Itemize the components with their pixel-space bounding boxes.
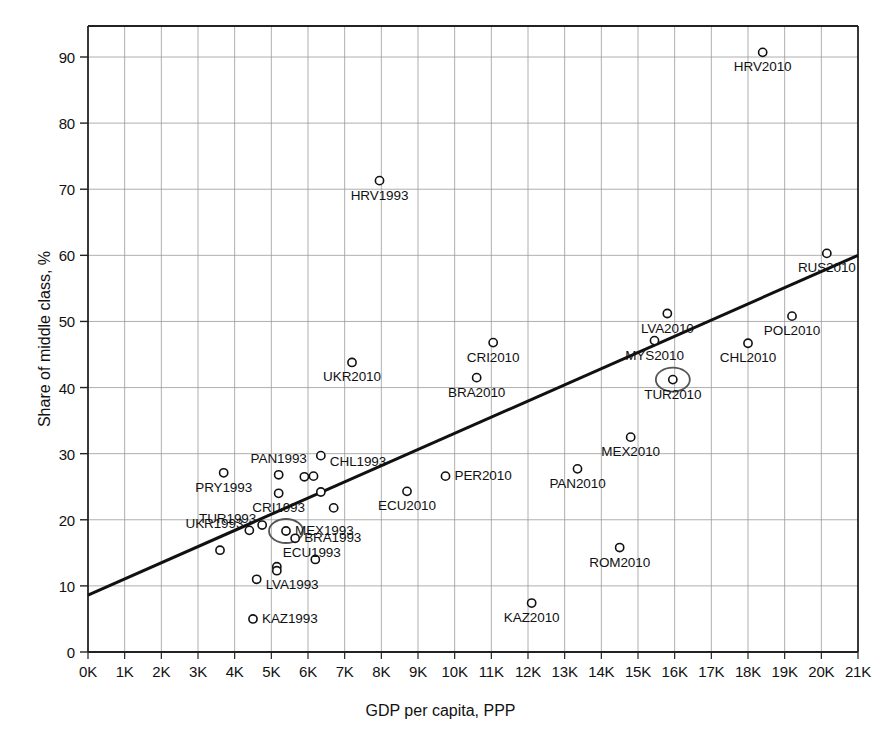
point-label: PAN2010 (549, 476, 605, 491)
data-point (249, 615, 257, 623)
y-tick-label: 0 (30, 644, 75, 661)
x-tick-label: 13K (552, 663, 578, 680)
point-label: CRI2010 (467, 350, 520, 365)
data-point (216, 546, 224, 554)
x-tick-label: 1K (116, 663, 134, 680)
data-point (823, 249, 831, 257)
x-tick-label: 14K (588, 663, 614, 680)
data-point (348, 358, 356, 366)
y-tick-label: 10 (30, 577, 75, 594)
data-point (258, 521, 266, 529)
trend-line (88, 255, 858, 595)
point-label: RUS2010 (798, 260, 856, 275)
x-tick-label: 2K (152, 663, 170, 680)
point-label: UKR1993 (185, 516, 243, 531)
data-point (573, 465, 581, 473)
data-point (788, 312, 796, 320)
point-label: HRV2010 (734, 59, 792, 74)
data-point (616, 543, 624, 551)
point-label: BRA1993 (304, 530, 361, 545)
data-point (441, 472, 449, 480)
x-tick-label: 12K (515, 663, 541, 680)
data-point (403, 487, 411, 495)
x-tick-label: 19K (772, 663, 798, 680)
point-label: UKR2010 (323, 369, 381, 384)
point-label: BRA2010 (448, 385, 505, 400)
data-point (759, 48, 767, 56)
point-label: PAN1993 (251, 451, 307, 466)
y-tick-label: 20 (30, 511, 75, 528)
data-point (528, 599, 536, 607)
data-point (317, 452, 325, 460)
point-label: KAZ1993 (262, 611, 318, 626)
point-label: LVA2010 (641, 321, 694, 336)
x-tick-label: 10K (442, 663, 468, 680)
y-axis-title: Share of middle class, % (36, 189, 54, 489)
x-tick-label: 3K (189, 663, 207, 680)
plot-canvas (0, 0, 881, 740)
data-point (650, 337, 658, 345)
data-point (245, 526, 253, 534)
point-label: MYS2010 (625, 348, 684, 363)
x-tick-label: 16K (662, 663, 688, 680)
x-tick-label: 21K (845, 663, 871, 680)
data-point (330, 504, 338, 512)
data-point (220, 469, 228, 477)
x-tick-label: 18K (735, 663, 761, 680)
x-tick-label: 9K (409, 663, 427, 680)
x-tick-label: 4K (226, 663, 244, 680)
data-point (744, 339, 752, 347)
point-label: ECU2010 (378, 498, 436, 513)
point-label: CHL2010 (720, 350, 776, 365)
x-tick-label: 8K (372, 663, 390, 680)
point-label: CHL1993 (330, 454, 386, 469)
point-label: HRV1993 (351, 188, 409, 203)
scatter-chart: 0K1K2K3K4K5K6K7K8K9K10K11K12K13K14K15K16… (0, 0, 881, 740)
point-label: TUR2010 (644, 387, 701, 402)
x-tick-label: 0K (79, 663, 97, 680)
data-point (275, 489, 283, 497)
point-label: MEX2010 (601, 444, 660, 459)
data-point (317, 488, 325, 496)
point-label: PER2010 (455, 468, 512, 483)
data-point (309, 472, 317, 480)
y-tick-label: 90 (30, 49, 75, 66)
x-axis-title: GDP per capita, PPP (0, 702, 881, 720)
x-tick-label: 6K (299, 663, 317, 680)
point-label: ECU1993 (283, 545, 341, 560)
data-point (473, 374, 481, 382)
point-label: LVA1993 (266, 577, 319, 592)
x-tick-label: 7K (336, 663, 354, 680)
x-tick-label: 17K (698, 663, 724, 680)
data-point (663, 309, 671, 317)
data-point (300, 473, 308, 481)
x-tick-label: 20K (808, 663, 834, 680)
point-label: PRY1993 (195, 480, 252, 495)
data-point (275, 471, 283, 479)
grid-layer (88, 26, 858, 652)
x-tick-label: 15K (625, 663, 651, 680)
x-tick-label: 5K (262, 663, 280, 680)
data-point (273, 567, 281, 575)
data-point (375, 177, 383, 185)
data-point (627, 433, 635, 441)
point-label: ROM2010 (589, 555, 650, 570)
point-label: KAZ2010 (504, 610, 560, 625)
plot-frame (88, 26, 858, 652)
x-tick-label: 11K (479, 663, 504, 680)
y-tick-label: 80 (30, 115, 75, 132)
point-label: POL2010 (764, 323, 820, 338)
point-label: CRI1993 (252, 500, 305, 515)
data-point (489, 339, 497, 347)
data-point (253, 575, 261, 583)
